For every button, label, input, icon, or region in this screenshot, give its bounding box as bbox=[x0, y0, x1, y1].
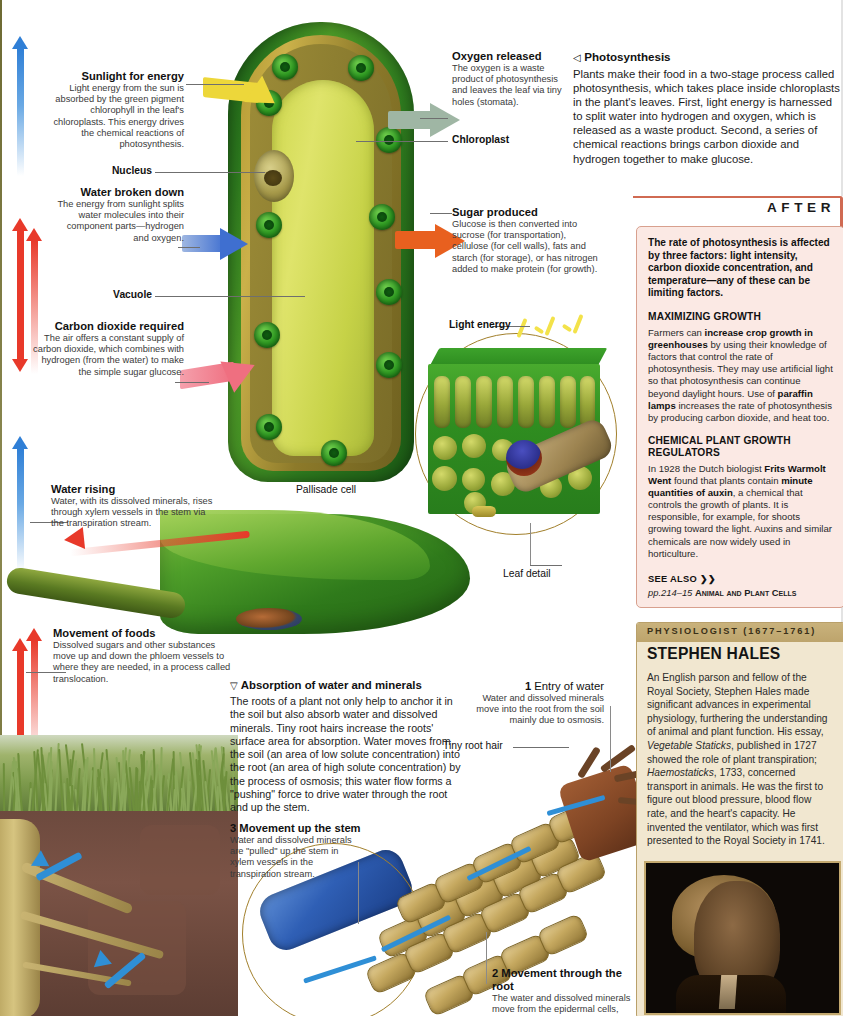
nucleus-shape bbox=[254, 150, 294, 202]
annotation-body: The oxygen is a waste product of photosy… bbox=[452, 63, 570, 108]
annotation-sugar-produced: Sugar produced Glucose is then converted… bbox=[452, 206, 604, 275]
absorption-marker-icon: ▽ bbox=[230, 680, 238, 691]
biography-kicker: PHYSIOLOGIST (1677–1761) bbox=[647, 626, 816, 636]
chloroplast-shape bbox=[321, 440, 347, 466]
light-ray bbox=[562, 324, 573, 333]
after-tab-label: AFTER bbox=[767, 200, 835, 215]
label-pallisade-cell: Pallisade cell bbox=[296, 484, 356, 495]
annotation-heading: Oxygen released bbox=[452, 50, 570, 63]
label-nucleus: Nucleus bbox=[80, 165, 152, 176]
step-body: The water and dissolved minerals move fr… bbox=[492, 993, 632, 1016]
annotation-sunlight-for-energy: Sunlight for energy Light energy from th… bbox=[44, 70, 184, 150]
after-panel: The rate of photosynthesis is affected b… bbox=[636, 226, 843, 608]
absorption-body: The roots of a plant not only help to an… bbox=[230, 695, 468, 815]
step-number: 3 bbox=[230, 822, 236, 834]
after-section-body: Farmers can increase crop growth in gree… bbox=[648, 327, 833, 424]
intro-body: Plants make their food in a two-stage pr… bbox=[573, 67, 841, 166]
leader-oxygen bbox=[420, 118, 448, 119]
annotation-heading: Sugar produced bbox=[452, 206, 604, 219]
chloroplast-shape bbox=[376, 352, 402, 378]
absorption-block: ▽ Absorption of water and minerals The r… bbox=[230, 678, 468, 815]
biography-body: An English parson and fellow of the Roya… bbox=[647, 671, 834, 848]
annotation-heading: Movement of foods bbox=[53, 627, 231, 640]
encyclopedia-page: Sunlight for energy Light energy from th… bbox=[0, 0, 843, 1016]
portrait-collar bbox=[719, 975, 737, 1009]
leader-nucleus bbox=[155, 172, 265, 173]
margin-arrow-blue-up-top bbox=[12, 36, 29, 176]
biography-name: STEPHEN HALES bbox=[647, 645, 780, 663]
arrow-water-blue bbox=[182, 228, 252, 262]
label-chloroplast: Chloroplast bbox=[452, 134, 509, 145]
palisade-cell-col bbox=[434, 376, 450, 428]
biography-panel: PHYSIOLOGIST (1677–1761) STEPHEN HALES A… bbox=[636, 622, 843, 1016]
xylem-phloem-end bbox=[506, 440, 542, 476]
step-entry-of-water: 1 Entry of water Water and dissolved min… bbox=[470, 680, 604, 727]
portrait-stephen-hales bbox=[644, 861, 841, 1015]
root-cortex-cell bbox=[536, 913, 589, 957]
intro-marker-icon: ◁ bbox=[573, 52, 581, 63]
soil-rock bbox=[140, 825, 220, 895]
palisade-cell-col bbox=[476, 376, 492, 428]
annotation-body: Dissolved sugars and other substances mo… bbox=[53, 640, 231, 685]
label-vacuole: Vacuole bbox=[80, 289, 152, 300]
chloroplast-shape bbox=[369, 204, 395, 230]
palisade-cell-col bbox=[455, 376, 471, 428]
annotation-body: Glucose is then converted into sucrose (… bbox=[452, 219, 604, 275]
spongy-mesophyll-cell bbox=[432, 466, 457, 491]
annotation-water-rising: Water rising Water, with its dissolved m… bbox=[51, 483, 216, 530]
annotation-carbon-dioxide-required: Carbon dioxide required The air offers a… bbox=[32, 320, 184, 378]
leaf-detail-leader bbox=[530, 523, 531, 565]
step-number: 1 bbox=[525, 680, 531, 692]
annotation-heading: Carbon dioxide required bbox=[32, 320, 184, 333]
annotation-body: Water, with its dissolved minerals, rise… bbox=[51, 496, 216, 530]
light-ray bbox=[544, 316, 555, 336]
step-movement-up-the-stem: 3 Movement up the stem Water and dissolv… bbox=[230, 822, 364, 880]
label-leaf-detail: Leaf detail bbox=[503, 568, 551, 579]
step-heading: Movement up the stem bbox=[239, 822, 360, 834]
leaf-vein-detail bbox=[236, 608, 302, 630]
leader-movement-through-root bbox=[486, 932, 487, 984]
see-also-title: Animal and Plant Cells bbox=[695, 587, 797, 598]
label-light-energy: Light energy bbox=[449, 319, 511, 330]
annotation-body: Light energy from the sun is absorbed by… bbox=[44, 83, 184, 150]
palisade-cell-col bbox=[497, 376, 513, 428]
annotation-body: The energy from sunlight splits water mo… bbox=[52, 199, 184, 244]
step-heading: Entry of water bbox=[534, 680, 604, 692]
palisade-cell-col bbox=[560, 376, 576, 428]
annotation-movement-of-foods: Movement of foods Dissolved sugars and o… bbox=[53, 627, 231, 685]
leader-co2 bbox=[175, 382, 209, 383]
absorption-title: Absorption of water and minerals bbox=[241, 679, 422, 691]
light-ray bbox=[534, 326, 545, 335]
light-ray bbox=[572, 314, 583, 334]
leaf-detail-3d-block bbox=[428, 340, 608, 518]
chloroplast-shape bbox=[256, 414, 282, 440]
see-also-reference[interactable]: pp.214–15 Animal and Plant Cells bbox=[648, 587, 833, 599]
annotation-oxygen-released: Oxygen released The oxygen is a waste pr… bbox=[452, 50, 570, 108]
step-movement-through-the-root: 2 Movement through the root The water an… bbox=[492, 967, 632, 1016]
grass-blade bbox=[2, 763, 4, 815]
after-lead-text: The rate of photosynthesis is affected b… bbox=[648, 237, 833, 300]
leader-sugar bbox=[430, 213, 452, 214]
intro-block: ◁ Photosynthesis Plants make their food … bbox=[573, 50, 841, 166]
leader-sunlight bbox=[186, 84, 244, 85]
chloroplast-shape bbox=[272, 54, 298, 80]
after-section-body: In 1928 the Dutch biologist Frits Warmol… bbox=[648, 463, 833, 560]
annotation-water-broken-down: Water broken down The energy from sunlig… bbox=[52, 186, 184, 244]
intro-title: Photosynthesis bbox=[584, 50, 670, 63]
arrow-water-rising-red-head bbox=[63, 527, 85, 551]
chloroplast-shape bbox=[376, 279, 402, 305]
arrow-carbon-dioxide-pink bbox=[180, 352, 268, 394]
chloroplast-shape bbox=[254, 322, 280, 348]
leaf-detail-leader-h bbox=[530, 565, 562, 566]
leader-chloroplast bbox=[356, 141, 448, 142]
grass-layer bbox=[0, 735, 238, 815]
see-also-pages: pp.214–15 bbox=[648, 587, 692, 598]
leader-vacuole bbox=[155, 296, 305, 297]
spongy-mesophyll-cell bbox=[462, 434, 486, 458]
leader-tiny-root-hair bbox=[513, 747, 569, 748]
leader-entry-of-water bbox=[610, 706, 611, 772]
annotation-heading: Water rising bbox=[51, 483, 216, 496]
chloroplast-shape bbox=[256, 212, 282, 238]
leader-water bbox=[178, 247, 200, 248]
see-also-label[interactable]: SEE ALSO ❯❯ bbox=[648, 573, 833, 585]
